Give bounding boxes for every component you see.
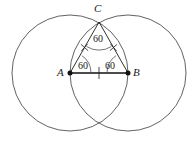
vertex-dot-A [68, 71, 73, 76]
geometry-figure: A B C 60 60 60 [0, 0, 192, 145]
angle-measure-at-C: 60 [93, 34, 103, 44]
tick-segment-BC [110, 44, 117, 51]
vertex-label-A: A [57, 67, 64, 78]
tick-segment-AC [81, 44, 88, 51]
geometry-canvas [0, 0, 192, 145]
angle-measure-at-A: 60 [78, 61, 88, 71]
vertex-label-B: B [133, 67, 140, 78]
vertex-dot-B [126, 71, 131, 76]
vertex-label-C: C [94, 3, 101, 14]
angle-measure-at-B: 60 [105, 61, 115, 71]
angle-arc-C [87, 47, 112, 51]
